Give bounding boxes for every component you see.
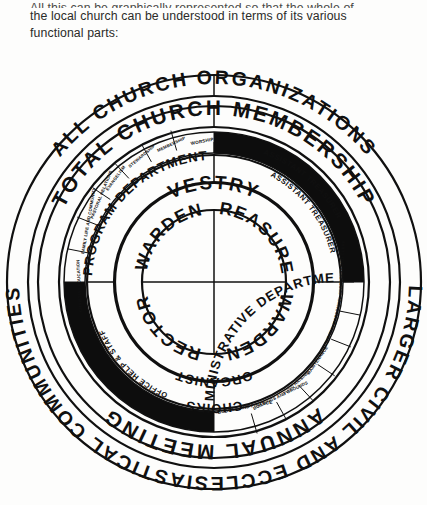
quadrant-label-warden-top-left: WARDEN	[131, 199, 205, 273]
church-organization-wheel-diagram: ALL CHURCH ORGANIZATIONS LARGER CIVIL AN…	[4, 62, 424, 502]
intro-line-3: functional parts:	[30, 25, 402, 42]
intro-line-1: All this can be graphically represented …	[30, 0, 402, 8]
admin-sub-personnel: PERSONNEL	[332, 295, 343, 324]
intro-line-2: the local church can be understood in te…	[30, 8, 402, 25]
admin-sub-altar-guild: ALTAR GUILD	[321, 321, 337, 351]
program-sub-worship: WORSHIP	[190, 137, 214, 146]
intro-paragraph: All this can be graphically represented …	[30, 0, 402, 41]
page-root: All this can be graphically represented …	[0, 0, 427, 505]
admin-sub-buildings-and-grounds: BUILDINGS AND GROUNDS	[252, 380, 308, 411]
quadrant-label-rector: RECTOR	[131, 293, 202, 364]
